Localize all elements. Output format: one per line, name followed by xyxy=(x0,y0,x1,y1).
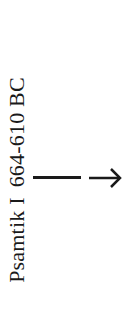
right-arrow-icon xyxy=(88,166,122,190)
ruler-label-text: Psamtik I664-610 BC xyxy=(4,77,30,283)
ruler-name: Psamtik I xyxy=(4,197,29,283)
ruler-dates: 664-610 BC xyxy=(4,77,29,187)
connector-line xyxy=(33,176,81,179)
